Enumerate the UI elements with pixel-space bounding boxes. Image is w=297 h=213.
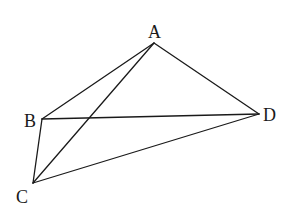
segment-cd	[33, 114, 259, 183]
segments	[33, 43, 259, 183]
segment-bd	[42, 114, 259, 119]
segment-ad	[154, 43, 259, 114]
label-a: A	[148, 22, 161, 42]
label-b: B	[24, 111, 36, 131]
label-d: D	[263, 105, 276, 125]
label-c: C	[16, 187, 28, 207]
geometry-diagram: A B C D	[0, 0, 297, 213]
